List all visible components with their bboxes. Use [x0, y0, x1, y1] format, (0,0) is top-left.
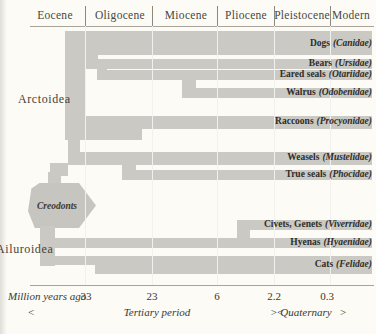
raccoons-branch-root — [65, 129, 142, 140]
axis-tick-6: 6 — [214, 290, 220, 302]
epoch-separator — [274, 6, 275, 26]
gridline-overlay — [274, 26, 275, 285]
family-common-name: Raccoons — [275, 116, 314, 126]
family-label-weasels: Weasels(Mustelidae) — [287, 152, 372, 162]
axis-baseline — [30, 285, 374, 286]
page-edge-shading — [0, 0, 7, 334]
epoch-separator — [217, 6, 218, 26]
family-label-civets: Civets, Genets(Viverridae) — [264, 219, 372, 229]
axis-caption: Million years ago — [8, 290, 86, 302]
family-latin-name: (Mustelidae) — [322, 152, 372, 162]
group-label-arctoidea: Arctoidea — [18, 92, 71, 107]
family-common-name: Hyenas — [290, 237, 320, 247]
family-label-bears: Bears(Ursidae) — [309, 58, 372, 68]
epoch-label-modern: Modern — [332, 9, 370, 21]
family-label-hyenas: Hyenas(Hyaenidae) — [290, 237, 372, 247]
epoch-separator — [330, 6, 331, 26]
family-label-raccoons: Raccoons(Procyonidae) — [275, 116, 372, 126]
gridline-overlay — [85, 26, 86, 285]
family-latin-name: (Procyonidae) — [317, 116, 372, 126]
family-common-name: Dogs — [310, 38, 330, 48]
family-label-cats: Cats(Felidae) — [315, 259, 372, 269]
family-common-name: Civets, Genets — [264, 219, 322, 229]
family-latin-name: (Hyaenidae) — [323, 237, 372, 247]
period-label-tertiary: Tertiary period — [124, 306, 191, 318]
family-latin-name: (Otariidae) — [329, 69, 372, 79]
epoch-separator — [85, 6, 86, 26]
gridline-overlay — [217, 26, 218, 285]
epoch-label-pliocene: Pliocene — [225, 9, 267, 21]
period-label-quaternary: Quaternary — [280, 306, 331, 318]
epoch-label-eocene: Eocene — [37, 9, 73, 21]
family-latin-name: (Phocidae) — [329, 169, 372, 179]
family-common-name: Cats — [315, 259, 333, 269]
family-latin-name: (Odobenidae) — [319, 87, 372, 97]
family-common-name: Eared seals — [280, 69, 326, 79]
axis-tick-2-2: 2.2 — [267, 290, 281, 302]
tertiary-left-arrow: < — [28, 306, 34, 318]
quaternary-right-arrow: > — [340, 306, 346, 318]
family-latin-name: (Canidae) — [333, 38, 372, 48]
creodonts-label: Creodonts — [37, 201, 87, 211]
gridline-overlay — [152, 26, 153, 285]
header-underline — [30, 26, 374, 27]
epoch-separator — [152, 6, 153, 26]
family-label-eared-seals: Eared seals(Otariidae) — [280, 69, 372, 79]
axis-tick-23: 23 — [147, 290, 158, 302]
epoch-label-pleistocene: Pleistocene — [274, 9, 330, 21]
family-common-name: Walrus — [286, 87, 316, 97]
axis-tick-0-3: 0.3 — [320, 290, 334, 302]
axis-tick-33: 33 — [81, 290, 92, 302]
family-latin-name: (Viverridae) — [325, 219, 372, 229]
family-common-name: Bears — [309, 58, 332, 68]
group-label-ailuroidea: Ailuroidea — [0, 242, 53, 257]
family-label-walrus: Walrus(Odobenidae) — [286, 87, 372, 97]
cats-branch-root — [40, 256, 100, 265]
epoch-label-oligocene: Oligocene — [95, 9, 145, 21]
family-latin-name: (Ursidae) — [335, 58, 372, 68]
family-label-true-seals: True seals(Phocidae) — [286, 169, 372, 179]
family-common-name: True seals — [286, 169, 327, 179]
family-common-name: Weasels — [287, 152, 319, 162]
family-label-dogs: Dogs(Canidae) — [310, 38, 372, 48]
family-latin-name: (Felidae) — [336, 259, 372, 269]
epoch-label-miocene: Miocene — [165, 9, 207, 21]
phylogeny-diagram: Eocene Oligocene Miocene Pliocene Pleist… — [0, 0, 376, 334]
